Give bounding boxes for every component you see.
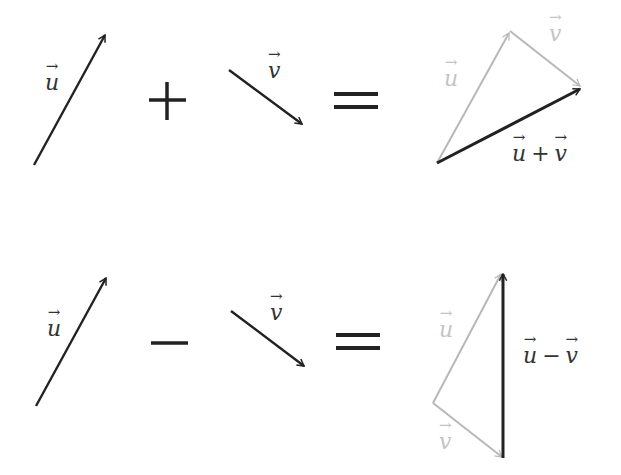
label-v-2: v	[270, 302, 282, 324]
label-u: u	[45, 72, 59, 94]
label-difference: u−v	[523, 345, 578, 367]
addition-row	[34, 31, 580, 165]
label-sum: u+v	[512, 143, 567, 165]
faded-v-arrow	[510, 31, 580, 86]
vector-u-arrow	[34, 35, 105, 165]
label-faded-u-2: u	[439, 319, 453, 341]
vector-u-arrow-2	[36, 278, 106, 406]
vector-v-arrow-2	[231, 311, 304, 366]
label-v: v	[268, 60, 280, 82]
label-faded-u: u	[444, 68, 458, 90]
equals-sign-2	[336, 335, 380, 348]
label-faded-v: v	[549, 23, 561, 45]
equals-sign	[334, 94, 378, 107]
label-u-2: u	[47, 318, 61, 340]
vector-v-arrow	[229, 70, 302, 124]
vector-diagram	[0, 0, 621, 475]
label-faded-v-2: v	[439, 431, 451, 453]
plus-sign	[149, 82, 186, 120]
